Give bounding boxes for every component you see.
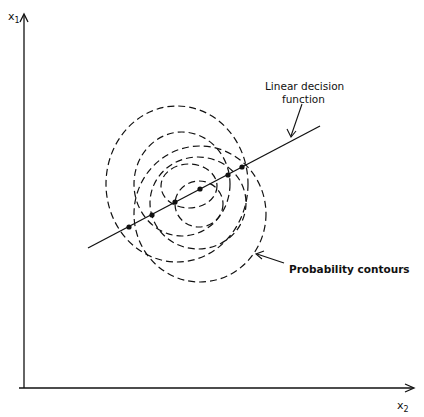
x-axis-label: x2: [397, 399, 409, 414]
point-2: [149, 212, 154, 217]
axes: [19, 14, 414, 392]
point-1: [126, 224, 131, 229]
contour-a-inner: [161, 164, 217, 208]
y-axis-label: x1: [8, 10, 20, 25]
contour-a-outer: [106, 106, 248, 262]
line-label-line1: Linear decision: [265, 80, 344, 92]
decision-diagram: x1 x2 Linear decision function Probabili…: [0, 0, 424, 417]
point-3: [172, 199, 177, 204]
point-5: [225, 172, 230, 177]
line-label-pointer: [291, 104, 302, 136]
contours-label: Probability contours: [289, 263, 410, 275]
line-label-line2: function: [282, 93, 325, 105]
probability-contours: [106, 106, 266, 282]
annotation-arrows: [256, 104, 302, 263]
point-4: [197, 186, 202, 191]
contour-b-mid: [150, 157, 246, 249]
point-6: [239, 164, 244, 169]
